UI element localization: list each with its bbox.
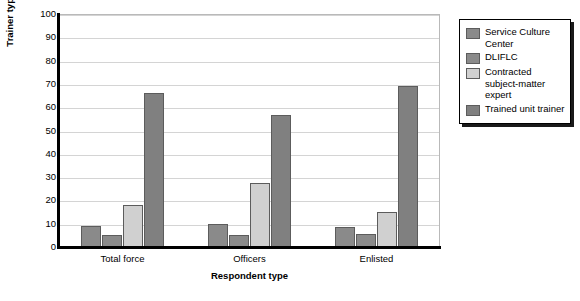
y-axis-tick-label: 40 xyxy=(28,149,56,159)
x-axis-line xyxy=(57,246,441,249)
y-axis-tick-label: 60 xyxy=(28,102,56,112)
plot-area xyxy=(59,14,440,247)
legend-item[interactable]: Service Culture Center xyxy=(466,26,565,49)
y-axis-tick-label: 30 xyxy=(28,172,56,182)
bar xyxy=(271,115,291,247)
y-axis-line xyxy=(57,13,60,249)
y-axis-tick-label: 20 xyxy=(28,195,56,205)
bar xyxy=(398,86,418,247)
bar xyxy=(335,227,355,247)
bar xyxy=(208,224,228,247)
legend-label: Trained unit trainer xyxy=(485,103,564,115)
y-axis-tick-label: 50 xyxy=(28,126,56,136)
x-axis-tick-labels: Total forceOfficersEnlisted xyxy=(59,252,440,268)
legend-label: Service Culture Center xyxy=(485,26,565,49)
bar xyxy=(377,212,397,247)
x-axis-tick-label: Officers xyxy=(233,252,266,266)
bar xyxy=(144,93,164,247)
x-axis-title: Respondent type xyxy=(59,270,440,281)
y-axis-tick-label: 70 xyxy=(28,79,56,89)
legend-swatch-icon xyxy=(466,68,480,79)
legend-item[interactable]: Trained unit trainer xyxy=(466,103,565,116)
bar xyxy=(81,226,101,247)
legend-swatch-icon xyxy=(466,105,480,116)
legend-item[interactable]: Contracted subject-matter expert xyxy=(466,66,565,101)
y-axis-title: Trainer type (%) xyxy=(2,0,18,76)
chart-legend: Service Culture CenterDLIFLCContracted s… xyxy=(459,19,571,124)
legend-swatch-icon xyxy=(466,28,480,39)
y-axis-tick-label: 0 xyxy=(28,242,56,252)
y-axis-tick-label: 80 xyxy=(28,56,56,66)
y-axis-tick-label: 90 xyxy=(28,32,56,42)
legend-swatch-icon xyxy=(466,53,480,64)
legend-label: Contracted subject-matter expert xyxy=(485,66,565,101)
bar xyxy=(250,183,270,247)
y-axis-tick-label: 10 xyxy=(28,219,56,229)
y-axis-tick-label: 100 xyxy=(28,9,56,19)
legend-label: DLIFLC xyxy=(485,51,518,63)
x-axis-tick-label: Enlisted xyxy=(360,252,394,266)
x-axis-tick-label: Total force xyxy=(101,252,145,266)
bar xyxy=(123,205,143,247)
bar-chart-figure: Trainer type (%) 0102030405060708090100 … xyxy=(0,0,580,301)
y-axis-tick-labels: 0102030405060708090100 xyxy=(28,14,56,247)
legend-item[interactable]: DLIFLC xyxy=(466,51,565,64)
bar-series-container xyxy=(59,15,439,247)
